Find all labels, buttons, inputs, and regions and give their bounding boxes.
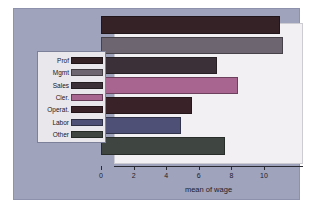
bar-operat [101, 97, 192, 114]
legend-swatch-icon [71, 131, 103, 138]
x-tick-4 [166, 166, 167, 170]
figure-frame: 0246810 mean of wage ProfMgmtSalesCler.O… [13, 8, 300, 200]
x-tick-6 [199, 166, 200, 170]
legend-swatch-icon [71, 94, 103, 101]
legend-swatch-icon [71, 82, 103, 89]
legend-item-label: Labor [40, 117, 69, 128]
x-tick-8 [231, 166, 232, 170]
x-tick-0 [101, 166, 102, 170]
legend-item-operat[interactable]: Operat. [40, 104, 105, 115]
bar-sales [101, 57, 217, 74]
x-axis-label: mean of wage [114, 185, 303, 194]
bar-labor [101, 117, 181, 134]
bar-mgmt [101, 37, 283, 54]
bar-prof [101, 16, 280, 33]
legend-item-sales[interactable]: Sales [40, 80, 105, 91]
legend-swatch-icon [71, 57, 103, 64]
legend-item-other[interactable]: Other [40, 129, 105, 140]
legend-item-label: Other [40, 129, 69, 140]
x-tick-label-2: 2 [124, 171, 144, 180]
legend-item-cler[interactable]: Cler. [40, 92, 105, 103]
legend-swatch-icon [71, 119, 103, 126]
bar-other [101, 137, 225, 154]
bar-cler [101, 77, 238, 94]
legend-item-label: Prof [40, 55, 69, 66]
x-tick-10 [264, 166, 265, 170]
x-axis-line [114, 166, 303, 167]
legend-item-label: Sales [40, 80, 69, 91]
legend-item-prof[interactable]: Prof [40, 55, 105, 66]
x-tick-label-8: 8 [221, 171, 241, 180]
legend-item-labor[interactable]: Labor [40, 117, 105, 128]
legend-item-label: Cler. [40, 92, 69, 103]
x-tick-2 [134, 166, 135, 170]
figure: 0246810 mean of wage ProfMgmtSalesCler.O… [0, 0, 313, 209]
x-tick-label-4: 4 [156, 171, 176, 180]
legend-item-label: Mgmt [40, 67, 69, 78]
x-tick-label-0: 0 [91, 171, 111, 180]
x-tick-label-10: 10 [254, 171, 274, 180]
legend-item-mgmt[interactable]: Mgmt [40, 67, 105, 78]
legend-swatch-icon [71, 69, 103, 76]
legend: ProfMgmtSalesCler.Operat.LaborOther [37, 51, 106, 143]
legend-item-label: Operat. [40, 104, 69, 115]
legend-swatch-icon [71, 106, 103, 113]
x-tick-label-6: 6 [189, 171, 209, 180]
